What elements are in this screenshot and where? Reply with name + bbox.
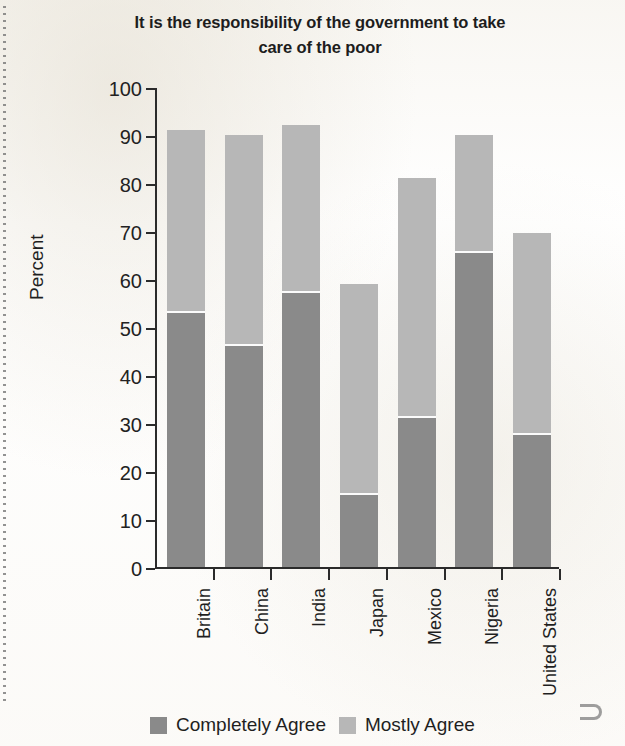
- y-axis-tick-label: 10: [82, 511, 142, 531]
- bar-segment-mostly-agree: [513, 233, 551, 435]
- y-axis-tick-label: 60: [82, 271, 142, 291]
- bar-stack: [455, 135, 493, 567]
- x-axis-tick-label: Britain: [194, 588, 215, 639]
- y-axis-tick: [146, 568, 155, 570]
- bar-segment-divider: [225, 344, 263, 346]
- chart-title: It is the responsibility of the governme…: [120, 10, 520, 60]
- bar-segment-mostly-agree: [398, 178, 436, 418]
- y-axis-tick: [146, 280, 155, 282]
- bar-segment-divider: [282, 291, 320, 293]
- x-axis-tick-label: Japan: [367, 588, 388, 637]
- y-axis-tick: [146, 184, 155, 186]
- y-axis-tick: [146, 88, 155, 90]
- x-axis-tick-label: India: [309, 588, 330, 627]
- legend-label: Completely Agree: [176, 714, 326, 736]
- y-axis-tick: [146, 472, 155, 474]
- bar-segment-completely-agree: [167, 313, 205, 567]
- y-axis-tick-label: 70: [82, 223, 142, 243]
- y-axis-tick-label: 40: [82, 367, 142, 387]
- bar-stack: [167, 130, 205, 567]
- x-axis-tick-label: Nigeria: [482, 588, 503, 645]
- x-axis-tick: [501, 569, 503, 580]
- bar-stack: [282, 125, 320, 567]
- bar-segment-completely-agree: [513, 435, 551, 567]
- stacked-bar-chart: It is the responsibility of the governme…: [0, 0, 625, 746]
- bar-segment-completely-agree: [398, 418, 436, 567]
- x-axis-tick-label: Mexico: [425, 588, 446, 645]
- legend-label: Mostly Agree: [365, 714, 475, 736]
- bar-segment-divider: [340, 493, 378, 495]
- bar-segment-divider: [167, 311, 205, 313]
- y-axis-tick-label: 0: [82, 559, 142, 579]
- bar-segment-mostly-agree: [225, 135, 263, 346]
- y-axis-tick: [146, 424, 155, 426]
- bar-stack: [340, 284, 378, 567]
- x-axis-tick: [270, 569, 272, 580]
- y-axis-tick-label: 80: [82, 175, 142, 195]
- legend-item: Mostly Agree: [339, 714, 475, 736]
- scan-smudge-artifact: [580, 704, 602, 720]
- x-axis-line: [155, 567, 559, 569]
- bar-segment-divider: [398, 416, 436, 418]
- bar-segment-mostly-agree: [167, 130, 205, 312]
- bar-segment-divider: [513, 433, 551, 435]
- legend-item: Completely Agree: [150, 714, 326, 736]
- y-axis-tick-label: 20: [82, 463, 142, 483]
- y-axis-tick-label: 90: [82, 127, 142, 147]
- legend-swatch-completely-agree: [150, 717, 167, 734]
- y-axis-tick: [146, 520, 155, 522]
- x-axis-tick: [386, 569, 388, 580]
- bar-segment-completely-agree: [455, 253, 493, 567]
- x-axis-tick: [559, 569, 561, 580]
- bar-stack: [225, 135, 263, 567]
- plot-area: 0102030405060708090100 BritainChinaIndia…: [155, 88, 559, 568]
- y-axis-tick: [146, 232, 155, 234]
- bar-segment-mostly-agree: [455, 135, 493, 253]
- y-axis-tick-label: 100: [82, 79, 142, 99]
- y-axis-title: Percent: [26, 235, 48, 300]
- y-axis-line: [155, 88, 157, 569]
- x-axis-tick-label: United States: [540, 588, 561, 696]
- x-axis-tick: [444, 569, 446, 580]
- legend-swatch-mostly-agree: [339, 717, 356, 734]
- y-axis-tick: [146, 376, 155, 378]
- y-axis-tick: [146, 328, 155, 330]
- x-axis-tick-label: China: [252, 588, 273, 635]
- bar-segment-mostly-agree: [282, 125, 320, 293]
- bar-segment-completely-agree: [282, 293, 320, 567]
- x-axis-tick: [328, 569, 330, 580]
- y-axis-tick: [146, 136, 155, 138]
- chart-legend: Completely AgreeMostly Agree: [150, 714, 475, 736]
- bar-stack: [513, 233, 551, 567]
- bar-segment-divider: [455, 251, 493, 253]
- bar-stack: [398, 178, 436, 567]
- bar-segment-completely-agree: [225, 346, 263, 567]
- y-axis-tick-label: 50: [82, 319, 142, 339]
- bar-segment-mostly-agree: [340, 284, 378, 495]
- x-axis-tick: [213, 569, 215, 580]
- bar-segment-completely-agree: [340, 495, 378, 567]
- y-axis-tick-label: 30: [82, 415, 142, 435]
